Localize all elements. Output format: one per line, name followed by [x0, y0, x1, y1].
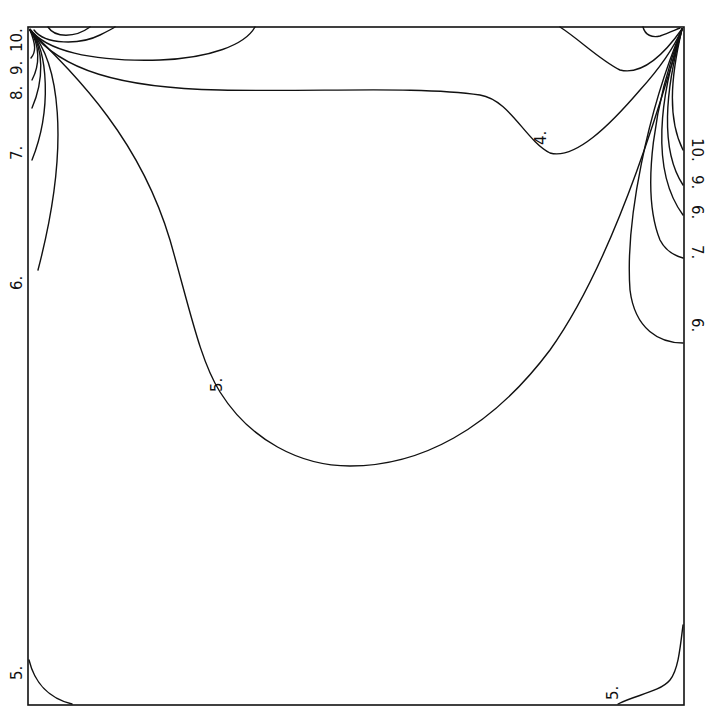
contour-bottom-left-5 — [29, 660, 72, 704]
label-left-7: 7. — [8, 146, 26, 160]
contour-labels: 10. 9. 8. 7. 6. 4. 10. 9. 6. 7. 6. 5. 5.… — [8, 28, 706, 700]
label-right-10: 10. — [688, 138, 706, 162]
contour-center-5 — [30, 29, 682, 466]
label-right-7: 7. — [688, 245, 706, 259]
contour-top-span — [30, 29, 682, 154]
label-bottom-right-5: 5. — [604, 686, 622, 700]
label-right-9: 9. — [688, 175, 706, 189]
contour-right-6 — [629, 29, 683, 343]
label-bottom-left-5: 5. — [8, 666, 26, 680]
label-interior-4: 4. — [532, 131, 550, 145]
label-left-10: 10. — [8, 28, 26, 52]
label-center-5: 5. — [208, 378, 226, 392]
contour-plot: 10. 9. 8. 7. 6. 4. 10. 9. 6. 7. 6. 5. 5.… — [0, 0, 709, 725]
contour-bottom-right-5 — [618, 625, 683, 704]
contour-top-left-long-1 — [30, 27, 255, 60]
contour-top-right-arc — [560, 27, 682, 71]
cavity-frame — [28, 27, 684, 705]
contour-top-left-lobe-1 — [48, 27, 90, 35]
label-right-6a: 6. — [688, 205, 706, 219]
label-left-9: 9. — [8, 61, 26, 75]
label-right-6: 6. — [688, 318, 706, 332]
contour-right-7 — [651, 29, 683, 258]
label-left-6: 6. — [8, 276, 26, 290]
contour-top-right-lobe — [643, 27, 680, 37]
label-left-8: 8. — [8, 86, 26, 100]
